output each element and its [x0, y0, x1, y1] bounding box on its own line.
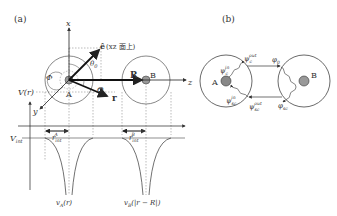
well-a-left — [45, 138, 66, 195]
r-vector-label: r — [112, 93, 117, 103]
r-int-a-label: rintA — [52, 132, 62, 143]
Theta-label: Θ — [97, 85, 104, 94]
psi-c-in-wave — [229, 62, 244, 77]
panel-b-label: (b) — [222, 14, 235, 24]
theta0-label: θ0 — [90, 60, 98, 69]
v-b-label: vB(|r − R|) — [124, 199, 161, 208]
well-a-right — [72, 138, 93, 195]
psi-c-in-label: ψcin — [220, 65, 229, 76]
atom-a-label: A — [65, 90, 72, 99]
phi-0-label: φ0 — [272, 56, 280, 65]
v-int-label: Vint — [10, 134, 24, 144]
z-axis-label: z — [187, 78, 193, 87]
well-b-right — [149, 138, 171, 195]
v-a-label: vA(r) — [56, 199, 72, 208]
y-axis — [40, 80, 69, 109]
x-axis-label: x — [66, 19, 71, 28]
phi-sc-label: φsc — [278, 102, 288, 111]
e-vector-label: ê — [100, 41, 105, 51]
r-int-b-label: rintB — [129, 132, 139, 143]
e-vector-note: (xz 面上) — [106, 42, 136, 51]
panel-a-label: (a) — [14, 14, 26, 24]
phi-label: Φ — [46, 73, 53, 82]
panel-b: (b) A B ψcin ψcout ψscin ψscout φ0 φsc — [200, 14, 330, 112]
atom-a-core-b — [221, 76, 231, 86]
diagram: (a) x z y — [0, 0, 337, 216]
panel-a: (a) x z y — [10, 14, 193, 208]
psi-sc-in-label: ψscin — [226, 95, 237, 106]
atom-b-label-b: B — [311, 71, 317, 80]
y-axis-label: y — [32, 107, 38, 116]
atom-b-core-b — [299, 76, 309, 86]
atom-a-label-b: A — [211, 78, 218, 87]
R-vector-label: R — [130, 70, 138, 80]
V-r-label: V(r) — [18, 88, 34, 97]
theta0-arc — [69, 64, 80, 69]
atom-b-label: B — [150, 71, 156, 80]
psi-sc-out-label: ψscout — [249, 101, 262, 112]
psi-c-out-label: ψcout — [244, 53, 257, 64]
well-b-left — [122, 138, 143, 195]
